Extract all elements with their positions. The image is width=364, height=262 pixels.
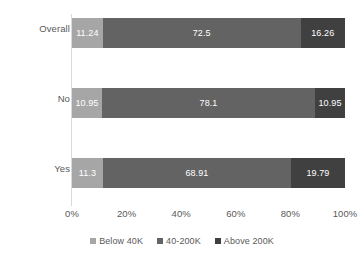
bar-segment-yes-40-200k[interactable]: 68.91 [103,158,291,188]
x-axis-tick-40: 40% [161,208,201,219]
bar-row-overall: 11.24 72.5 16.26 [72,18,345,48]
bar-segment-overall-40-200k[interactable]: 72.5 [103,18,301,48]
bar-segment-no-above-200k[interactable]: 10.95 [315,88,345,118]
chart-legend: Below 40K 40-200K Above 200K [0,232,364,250]
bar-segment-yes-below-40k[interactable]: 11.3 [72,158,103,188]
legend-label-below-40k: Below 40K [99,236,143,246]
bar-row-yes: 11.3 68.91 19.79 [72,158,345,188]
y-axis-tick-labels: Overall No Yes [14,14,70,206]
legend-label-above-200k: Above 200K [224,236,274,246]
y-axis-label-overall: Overall [18,23,70,34]
legend-item-above-200k[interactable]: Above 200K [215,236,274,246]
x-axis-tick-80: 80% [270,208,310,219]
bar-segment-overall-below-40k[interactable]: 11.24 [72,18,103,48]
legend-item-below-40k[interactable]: Below 40K [90,236,143,246]
y-axis-label-yes: Yes [18,163,70,174]
x-axis-tick-20: 20% [107,208,147,219]
x-axis-tick-100: 100% [325,208,364,219]
legend-swatch-icon-below-40k [90,238,96,244]
bar-segment-overall-above-200k[interactable]: 16.26 [301,18,345,48]
x-axis-tick-60: 60% [216,208,256,219]
legend-item-40-200k[interactable]: 40-200K [157,236,201,246]
bar-segment-yes-above-200k[interactable]: 19.79 [291,158,345,188]
legend-label-40-200k: 40-200K [166,236,201,246]
bar-row-no: 10.95 78.1 10.95 [72,88,345,118]
bar-segment-no-40-200k[interactable]: 78.1 [102,88,315,118]
legend-swatch-icon-40-200k [157,238,163,244]
x-axis-tick-0: 0% [52,208,92,219]
bar-segment-no-below-40k[interactable]: 10.95 [72,88,102,118]
legend-swatch-icon-above-200k [215,238,221,244]
y-axis-label-no: No [18,93,70,104]
x-axis-tick-labels: 0% 20% 40% 60% 80% 100% [72,208,345,224]
plot-area: 11.24 72.5 16.26 10.95 78.1 10.95 11.3 6… [72,14,345,206]
stacked-bar-chart: Did you take the CASPer? Overall No Yes … [0,0,364,262]
